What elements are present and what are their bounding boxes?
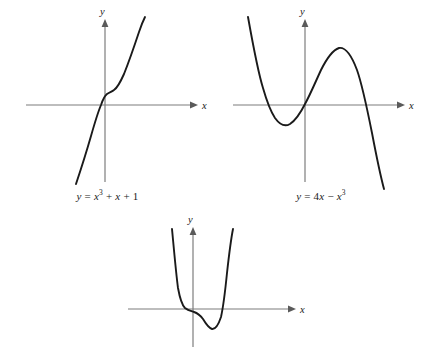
- x-axis-label-3: x: [299, 304, 305, 315]
- equation-2-x-linear: x: [319, 190, 324, 202]
- y-axis-arrowhead-1: [102, 19, 109, 27]
- equation-2-eq: = 4: [304, 190, 319, 202]
- graph-panel-1: y x: [0, 0, 215, 210]
- equation-1-plus-1: +: [106, 190, 115, 202]
- y-axis-arrowhead-3: [190, 227, 197, 235]
- plot-3: y x: [110, 205, 322, 348]
- equation-1-exponent: 3: [99, 188, 103, 197]
- equation-1-x-linear: x: [115, 190, 120, 202]
- x-axis-arrowhead-3: [288, 306, 296, 313]
- curve-cubic-2: [248, 17, 384, 189]
- equation-2-minus: −: [327, 190, 336, 202]
- equation-2-exponent: 3: [342, 188, 346, 197]
- curve-cubic-1: [76, 17, 145, 184]
- y-axis-label-2: y: [299, 6, 305, 17]
- graph-panel-2: y x: [215, 0, 427, 210]
- equation-caption-1: y = x3 + x + 1: [0, 190, 215, 202]
- equation-1-y: y: [77, 190, 82, 202]
- figure-container: y x y = x3 + x + 1 y x y = 4x − x3: [0, 0, 427, 348]
- equation-1-plus-const: + 1: [123, 190, 138, 202]
- curve-quartic-3: [172, 229, 233, 329]
- equation-2-y: y: [296, 190, 301, 202]
- y-axis-label-1: y: [99, 6, 105, 17]
- y-axis-arrowhead-2: [302, 19, 309, 27]
- graph-panel-3: y x: [110, 205, 322, 348]
- x-axis-arrowhead-2: [397, 102, 405, 109]
- x-axis-label-2: x: [408, 100, 414, 111]
- plot-1: y x: [0, 0, 215, 210]
- equation-1-eq: =: [85, 190, 94, 202]
- equation-caption-2: y = 4x − x3: [215, 190, 427, 202]
- y-axis-label-3: y: [187, 214, 193, 225]
- x-axis-label-1: x: [201, 100, 207, 111]
- x-axis-arrowhead-1: [190, 102, 198, 109]
- plot-2: y x: [215, 0, 427, 210]
